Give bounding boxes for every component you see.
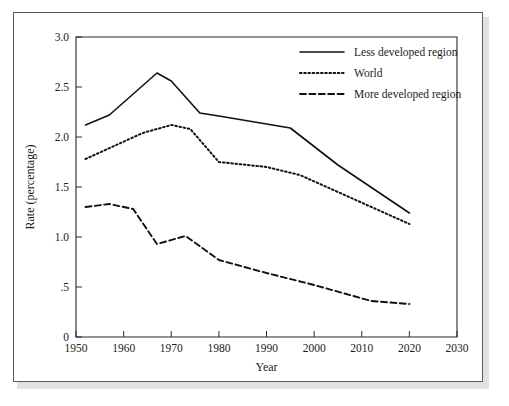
axis-frame [76,37,457,337]
x-axis-title: Year [255,360,277,374]
x-tick-label: 2030 [446,342,469,354]
x-tick-label: 1960 [112,342,135,354]
y-tick-label: .5 [60,281,69,293]
y-tick-label: 2.0 [55,131,70,143]
y-tick-label: 1.5 [55,181,70,193]
x-tick-label: 1980 [207,342,230,354]
series-line-dashed [86,204,410,304]
y-tick-label: 1.0 [55,231,70,243]
y-tick-label: 3.0 [55,31,70,43]
x-tick-label: 1970 [160,342,183,354]
x-tick-label: 2000 [303,342,326,354]
x-tick-label: 1990 [255,342,278,354]
x-tick-label: 2020 [398,342,421,354]
legend-label: World [354,67,383,79]
line-chart: 0.51.01.52.02.53.01950196019701980199020… [0,0,509,406]
y-tick-label: 2.5 [55,81,70,93]
x-tick-label: 2010 [350,342,373,354]
x-tick-label: 1950 [65,342,88,354]
legend-label: More developed region [354,88,462,101]
legend-label: Less developed region [354,46,458,59]
figure-page: 0.51.01.52.02.53.01950196019701980199020… [0,0,509,406]
y-axis-title: Rate (percentage) [23,145,37,230]
